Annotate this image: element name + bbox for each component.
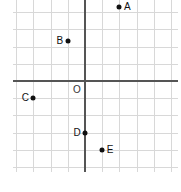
point-label: C	[22, 93, 29, 103]
point-label: D	[73, 128, 80, 138]
point-label: E	[107, 145, 114, 155]
grid-line-vertical	[16, 0, 17, 172]
grid-line-vertical	[171, 0, 172, 172]
point-label: B	[56, 36, 63, 46]
grid-line-vertical	[137, 0, 138, 172]
data-point	[83, 130, 88, 135]
grid-line-horizontal	[13, 64, 178, 65]
data-point	[65, 39, 70, 44]
origin-label: O	[73, 85, 81, 95]
grid-line-vertical	[33, 0, 34, 172]
grid-line-horizontal	[13, 12, 178, 13]
grid-line-vertical	[154, 0, 155, 172]
grid-line-horizontal	[13, 47, 178, 48]
data-point	[117, 5, 122, 10]
grid-line-vertical	[119, 0, 120, 172]
grid-line-vertical	[68, 0, 69, 172]
grid-line-horizontal	[13, 150, 178, 151]
y-axis	[84, 0, 86, 172]
coordinate-plane-figure: ABCDE O	[0, 0, 181, 192]
grid-line-horizontal	[13, 133, 178, 134]
x-axis	[13, 80, 178, 82]
point-label: A	[124, 2, 131, 12]
data-point	[100, 147, 105, 152]
data-point	[31, 96, 36, 101]
grid-line-horizontal	[13, 115, 178, 116]
grid-line-horizontal	[13, 167, 178, 168]
grid-line-vertical	[51, 0, 52, 172]
grid-line-horizontal	[13, 98, 178, 99]
grid-line-horizontal	[13, 29, 178, 30]
